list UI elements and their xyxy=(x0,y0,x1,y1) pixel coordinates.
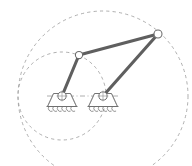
coupler-joint-left xyxy=(75,51,82,58)
link-crank-right xyxy=(103,34,158,96)
support-right xyxy=(88,91,119,112)
mechanism-diagram xyxy=(0,0,192,166)
coupler-joint-right xyxy=(154,30,162,38)
link-crank-left xyxy=(62,55,79,96)
support-right-hatching xyxy=(89,107,116,112)
link-coupler xyxy=(79,34,158,55)
support-left-hatching xyxy=(48,107,75,112)
support-left xyxy=(47,91,78,112)
